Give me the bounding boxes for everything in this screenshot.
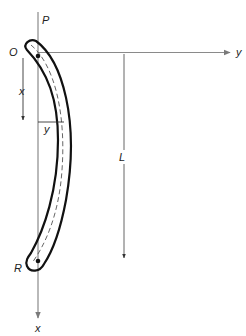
end-point-label: R bbox=[14, 262, 22, 274]
bent-column bbox=[25, 40, 70, 270]
point-o-marker bbox=[36, 54, 41, 59]
x-axis-bottom-label: x bbox=[34, 322, 41, 334]
length-label: L bbox=[119, 151, 125, 163]
load-label: P bbox=[42, 14, 50, 26]
point-r-marker bbox=[36, 259, 41, 264]
bent-column-diagram: P O y x y L R x bbox=[0, 0, 246, 336]
origin-label: O bbox=[9, 46, 18, 58]
x-dimension-label: x bbox=[18, 85, 25, 97]
y-axis-label: y bbox=[235, 46, 243, 58]
y-dimension-label: y bbox=[43, 123, 51, 135]
